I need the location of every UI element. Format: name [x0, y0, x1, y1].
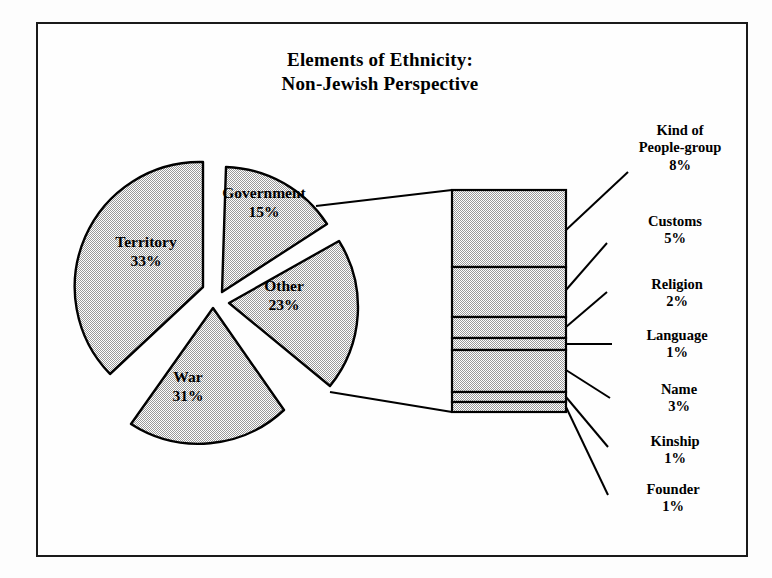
- bar-segment-kind-of-people-group[interactable]: [452, 190, 566, 267]
- seg-label-religion-name: Religion: [651, 276, 703, 292]
- page-title: Elements of Ethnicity: Non-Jewish Perspe…: [180, 48, 580, 97]
- seg-label-name-name: Name: [661, 381, 697, 397]
- seg-label-kind-of-people-group-name-1: Kind of: [656, 122, 703, 138]
- chart-canvas: Elements of Ethnicity: Non-Jewish Perspe…: [0, 0, 772, 578]
- chart-title-line-1: Elements of Ethnicity:: [287, 49, 473, 70]
- bar-segment-language[interactable]: [452, 338, 566, 350]
- seg-label-customs-value: 5%: [620, 230, 730, 247]
- seg-label-name-value: 3%: [624, 398, 734, 415]
- pie-label-government: Government 15%: [196, 184, 332, 222]
- pie-label-territory-name: Territory: [115, 233, 176, 250]
- seg-label-customs: Customs 5%: [620, 213, 730, 248]
- bar-segment-religion[interactable]: [452, 317, 566, 338]
- seg-label-language: Language 1%: [618, 327, 736, 362]
- seg-label-customs-name: Customs: [648, 213, 702, 229]
- bar-segment-kinship[interactable]: [452, 392, 566, 402]
- chart-title-line-2: Non-Jewish Perspective: [282, 73, 479, 94]
- pie-label-war-name: War: [173, 368, 202, 385]
- seg-label-name: Name 3%: [624, 381, 734, 416]
- pie-label-government-name: Government: [222, 184, 306, 201]
- pie-label-territory: Territory 33%: [86, 233, 206, 271]
- seg-label-religion-value: 2%: [622, 293, 732, 310]
- seg-label-kind-of-people-group-value: 8%: [616, 157, 744, 174]
- pie-label-other: Other 23%: [232, 277, 336, 315]
- seg-label-founder-value: 1%: [618, 498, 728, 515]
- seg-label-founder: Founder 1%: [618, 481, 728, 516]
- seg-label-kinship: Kinship 1%: [620, 433, 730, 468]
- seg-label-founder-name: Founder: [646, 481, 699, 497]
- pie-label-territory-value: 33%: [131, 252, 162, 269]
- bar-segment-founder[interactable]: [452, 402, 566, 412]
- seg-label-kind-of-people-group-name-2: People-group: [639, 139, 722, 155]
- bar-segment-customs[interactable]: [452, 267, 566, 317]
- bar-segment-name[interactable]: [452, 350, 566, 392]
- pie-label-other-value: 23%: [269, 296, 300, 313]
- stacked-bar: [452, 190, 566, 412]
- seg-label-kind-of-people-group: Kind of People-group 8%: [616, 122, 744, 174]
- seg-label-kinship-value: 1%: [620, 450, 730, 467]
- seg-label-language-name: Language: [646, 327, 707, 343]
- pie-label-war-value: 31%: [173, 387, 204, 404]
- seg-label-religion: Religion 2%: [622, 276, 732, 311]
- seg-label-language-value: 1%: [618, 344, 736, 361]
- pie-label-other-name: Other: [264, 277, 304, 294]
- pie-label-war: War 31%: [136, 368, 240, 406]
- pie-label-government-value: 15%: [249, 203, 280, 220]
- seg-label-kinship-name: Kinship: [650, 433, 699, 449]
